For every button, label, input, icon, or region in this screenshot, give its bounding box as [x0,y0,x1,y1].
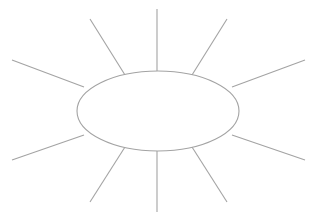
sun-diagram [0,0,316,221]
center-ellipse[interactable] [77,71,239,151]
diagram-canvas [0,0,316,221]
